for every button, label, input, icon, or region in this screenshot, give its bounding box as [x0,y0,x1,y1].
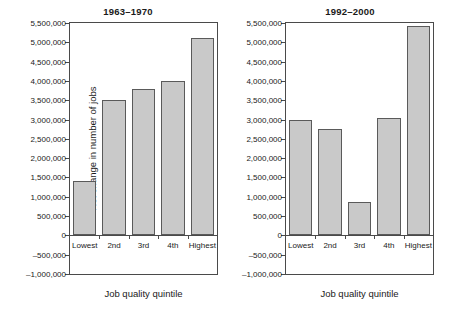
y-axis-tick-label: 0 [62,231,66,240]
x-axis-category-label: 4th [383,241,394,250]
y-axis-tick-label: 2,500,000 [246,134,282,143]
y-axis-tick-label: –1,000,000 [242,270,282,279]
y-axis-tick-label: 1,500,000 [246,173,282,182]
bars-layer: Lowest2nd3rd4thHighest [70,23,217,274]
plot-area: Net change in number of jobs –1,000,000–… [69,22,218,275]
y-axis-tick-label: 4,500,000 [246,57,282,66]
x-axis-title: Job quality quintile [69,288,218,299]
x-axis-tick-mark [99,235,100,239]
y-axis-tick-label: 500,000 [37,212,66,221]
x-axis-category-label: 2nd [323,241,336,250]
y-axis-tick-label: 3,000,000 [246,115,282,124]
bar [102,100,126,235]
y-axis-tick-label: 5,500,000 [246,19,282,28]
x-axis-tick-mark [188,235,189,239]
y-axis-tick-label: 1,500,000 [30,173,66,182]
bars-layer: Lowest2nd3rd4thHighest [286,23,433,274]
x-axis-title: Job quality quintile [285,288,434,299]
x-axis-category-label: 3rd [138,241,150,250]
y-axis-tick-label: 500,000 [253,212,282,221]
bar [132,89,156,235]
chart-panel-1963-1970: 1963–1970 Net change in number of jobs –… [0,0,228,309]
y-axis-tick-label: 4,000,000 [30,76,66,85]
x-axis-category-label: Lowest [288,241,313,250]
y-axis-tick-label: 1,000,000 [30,192,66,201]
figure-canvas: 1963–1970 Net change in number of jobs –… [0,0,456,309]
y-axis-tick-label: –500,000 [249,250,282,259]
y-axis-tick-label: 5,000,000 [30,38,66,47]
y-axis-tick-label: 0 [278,231,282,240]
x-axis-category-label: Highest [189,241,216,250]
chart-panel-1992-2000: 1992–2000 –1,000,000–500,0000500,0001,00… [228,0,456,309]
bar [377,118,401,236]
x-axis-category-label: 2nd [107,241,120,250]
x-axis-tick-mark [345,235,346,239]
panel-title: 1963–1970 [0,6,228,17]
y-axis-tick-label: 2,000,000 [30,154,66,163]
bar [73,181,97,236]
x-axis-category-label: Lowest [72,241,97,250]
x-axis-category-label: Highest [405,241,432,250]
y-axis-tick-label: 3,500,000 [30,96,66,105]
y-axis-tick-label: 4,500,000 [30,57,66,66]
plot-area: –1,000,000–500,0000500,0001,000,0001,500… [285,22,434,275]
y-axis-tick-label: 1,000,000 [246,192,282,201]
y-axis-tick-label: 2,500,000 [30,134,66,143]
y-axis-tick-label: 2,000,000 [246,154,282,163]
x-axis-category-label: 4th [167,241,178,250]
y-axis-tick-label: 5,000,000 [246,38,282,47]
x-axis-tick-mark [158,235,159,239]
bar [161,81,185,235]
x-axis-tick-mark [374,235,375,239]
y-axis-tick-label: 5,500,000 [30,19,66,28]
y-axis-tick-label: 4,000,000 [246,76,282,85]
x-axis-tick-mark [404,235,405,239]
y-axis-tick-label: –500,000 [33,250,66,259]
x-axis-category-label: 3rd [354,241,366,250]
bar [191,38,215,236]
bar [348,202,372,236]
y-axis-tick-label: 3,000,000 [30,115,66,124]
panel-title: 1992–2000 [228,6,456,17]
bar [407,26,431,235]
y-axis-tick-label: 3,500,000 [246,96,282,105]
x-axis-tick-mark [315,235,316,239]
bar [318,129,342,235]
bar [289,120,313,236]
x-axis-tick-mark [129,235,130,239]
y-axis-tick-label: –1,000,000 [26,270,66,279]
